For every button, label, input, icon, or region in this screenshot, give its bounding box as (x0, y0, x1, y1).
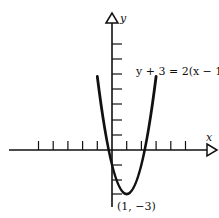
x-axis-arrow-icon (207, 144, 217, 156)
vertex-label: (1, −3) (117, 200, 156, 213)
x-axis-label: x (206, 131, 213, 144)
parabola-graph: y x y + 3 = 2(x − 1)2 (1, −3) (0, 0, 219, 218)
y-axis-label: y (119, 12, 127, 25)
parabola-curve (97, 77, 156, 195)
y-axis-arrow-icon (106, 13, 118, 23)
equation-label: y + 3 = 2(x − 1)2 (135, 63, 219, 78)
equation-text: y + 3 = 2(x − 1) (135, 65, 219, 78)
